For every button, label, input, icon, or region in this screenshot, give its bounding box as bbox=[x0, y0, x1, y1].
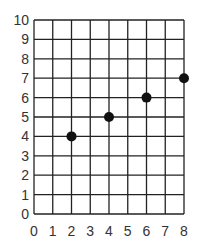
y-tick-label: 2 bbox=[21, 167, 29, 183]
data-point bbox=[179, 73, 189, 83]
y-tick-label: 4 bbox=[21, 128, 29, 144]
y-tick-label: 1 bbox=[21, 187, 29, 203]
x-tick-label: 8 bbox=[180, 223, 188, 239]
y-tick-label: 6 bbox=[21, 90, 29, 106]
data-point bbox=[104, 112, 114, 122]
y-tick-label: 3 bbox=[21, 148, 29, 164]
y-tick-label: 9 bbox=[21, 31, 29, 47]
x-tick-label: 0 bbox=[30, 223, 38, 239]
x-tick-label: 5 bbox=[124, 223, 132, 239]
x-tick-label: 7 bbox=[161, 223, 169, 239]
x-tick-label: 3 bbox=[86, 223, 94, 239]
y-tick-label: 10 bbox=[13, 12, 29, 28]
y-tick-label: 0 bbox=[21, 206, 29, 222]
x-tick-label: 6 bbox=[143, 223, 151, 239]
y-axis-ticks: 012345678910 bbox=[13, 12, 29, 222]
x-axis-ticks: 012345678 bbox=[30, 223, 188, 239]
x-tick-label: 1 bbox=[49, 223, 57, 239]
x-tick-label: 2 bbox=[68, 223, 76, 239]
y-tick-label: 8 bbox=[21, 51, 29, 67]
x-tick-label: 4 bbox=[105, 223, 113, 239]
scatter-chart: 012345678910 012345678 bbox=[0, 0, 203, 246]
y-tick-label: 5 bbox=[21, 109, 29, 125]
y-tick-label: 7 bbox=[21, 70, 29, 86]
data-point bbox=[142, 93, 152, 103]
data-point bbox=[67, 131, 77, 141]
